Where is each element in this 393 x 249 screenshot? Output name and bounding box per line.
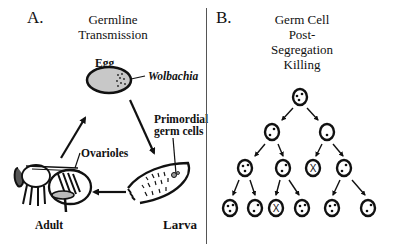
adult-fly-icon	[15, 153, 91, 212]
egg-icon	[87, 67, 145, 93]
larva-icon	[128, 163, 189, 203]
arrow-adult-to-egg	[61, 118, 85, 158]
germ-cell	[320, 124, 334, 140]
germ-cell	[295, 200, 309, 216]
killed-germ-cell: X	[306, 160, 320, 176]
lineage-arrows	[233, 108, 365, 195]
arrow-egg-to-larva	[130, 100, 154, 153]
germ-cell	[325, 200, 339, 216]
germ-cell	[293, 89, 307, 105]
germ-cell	[276, 160, 290, 176]
germ-cell	[248, 200, 262, 216]
killed-marker: X	[273, 203, 280, 214]
germ-cell	[361, 200, 375, 216]
diagram-canvas: X X	[0, 0, 393, 249]
germ-cell	[265, 124, 279, 140]
germ-cell	[337, 160, 351, 176]
germ-cell	[223, 200, 237, 216]
killed-germ-cell: X	[269, 200, 283, 216]
germ-cell	[238, 160, 252, 176]
killed-marker: X	[310, 163, 317, 174]
